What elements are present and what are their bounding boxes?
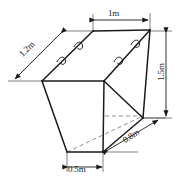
dimension-lines: [15, 20, 166, 167]
edge-top-left-slope: [42, 31, 93, 81]
dimension-label-bottom-width: 0.5m: [68, 164, 85, 174]
hook-mark-left-2: [57, 57, 66, 64]
hook-mark-right-2: [114, 57, 123, 64]
edge-inner-right-panel: [104, 81, 143, 118]
edge-front-right-wall: [103, 81, 104, 152]
figure-canvas: 1m 1.2m 1.5m 0.8m 0.5m: [0, 0, 179, 182]
dimension-label-right-height: 1.5m: [156, 63, 166, 80]
edge-top-right-slope: [104, 30, 150, 81]
edge-rear-right-wall: [143, 30, 150, 118]
edge-front-left-wall: [42, 81, 67, 152]
edge-top-rear: [93, 30, 150, 31]
slope-hook-marks: [57, 40, 140, 64]
channel-isometric-drawing: [0, 0, 179, 182]
dimension-label-top-width: 1m: [108, 8, 119, 18]
extension-lines: [8, 13, 172, 172]
